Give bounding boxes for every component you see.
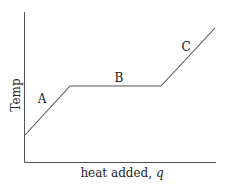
segment-label-a: A [37, 92, 47, 106]
x-axis-label-text: heat added, [80, 166, 156, 180]
segment-label-c: C [181, 40, 190, 54]
segment-label-b: B [115, 71, 124, 85]
x-axis-label: heat added, q [80, 166, 164, 180]
y-axis-label: Temp [9, 78, 23, 112]
x-axis-label-variable: q [156, 166, 164, 180]
heating-curve-diagram: A B C Temp heat added, q [0, 0, 229, 185]
